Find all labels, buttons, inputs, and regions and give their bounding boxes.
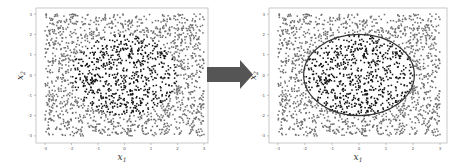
y-tick-label: 3 — [29, 12, 32, 17]
y-tick-label: 3 — [262, 12, 265, 17]
x-tick-label: 3 — [439, 146, 442, 151]
x-tick-label: -2 — [70, 146, 74, 151]
x-tick-label: -2 — [303, 146, 307, 151]
y-tick-label: 2 — [262, 32, 265, 37]
figure: -3-2-101233210-1-2-3x1x2 -3-2-101233210-… — [0, 0, 468, 167]
x-tick-label: -3 — [43, 146, 47, 151]
scatter-plot-right-with-boundary: -3-2-101233210-1-2-3x1x2 — [248, 8, 447, 163]
y-tick-label: 0 — [262, 73, 265, 78]
x-tick-label: 2 — [412, 146, 415, 151]
y-tick-label: 1 — [262, 52, 265, 57]
x-axis-label: x1 — [118, 152, 127, 163]
x-tick-label: 0 — [123, 146, 126, 151]
y-tick-label: -2 — [261, 113, 265, 118]
x-tick-label: 3 — [203, 146, 206, 151]
y-tick-label: -2 — [28, 113, 32, 118]
y-tick-label: -3 — [261, 133, 265, 138]
y-tick-label: 2 — [29, 32, 32, 37]
y-tick-label: -1 — [261, 93, 265, 98]
y-tick-label: 0 — [29, 73, 32, 78]
x-tick-label: 2 — [176, 146, 179, 151]
x-tick-label: -1 — [330, 146, 334, 151]
x-tick-label: 1 — [150, 146, 153, 151]
x-tick-label: -1 — [96, 146, 100, 151]
x-tick-label: 0 — [358, 146, 361, 151]
scatter-plot-left: -3-2-101233210-1-2-3x1x2 — [15, 8, 208, 163]
x-tick-label: 1 — [385, 146, 388, 151]
y-tick-label: -3 — [28, 133, 32, 138]
x-axis-label: x1 — [354, 152, 363, 163]
y-axis-label: x2 — [15, 71, 26, 80]
y-tick-label: 1 — [29, 52, 32, 57]
transform-arrow-icon — [207, 60, 253, 89]
x-tick-label: -3 — [276, 146, 280, 151]
y-tick-label: -1 — [28, 93, 32, 98]
